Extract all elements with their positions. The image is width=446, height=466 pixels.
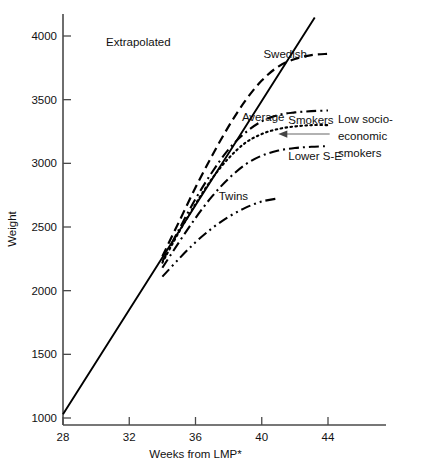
- arrow-head: [278, 130, 287, 137]
- average-label: Average: [242, 111, 285, 123]
- data-series: [63, 18, 328, 415]
- y-axis-title: Weight: [6, 210, 18, 246]
- lower-se-label: Lower S-E: [288, 150, 342, 162]
- y-tick-label: 2500: [31, 221, 57, 233]
- y-tick-label: 3000: [31, 157, 57, 169]
- y-tick-label: 1000: [31, 412, 57, 424]
- twins-label: Twins: [219, 190, 249, 202]
- y-tick-label: 4000: [31, 30, 57, 42]
- y-tick-label: 1500: [31, 348, 57, 360]
- weight-vs-gestational-age-chart: 10001500200025003000350040002832364044We…: [0, 0, 446, 466]
- series-line-extrapolated: [63, 18, 315, 415]
- chart-plot-area: 10001500200025003000350040002832364044We…: [0, 0, 446, 466]
- smokers-label: Smokers: [288, 114, 334, 126]
- x-tick-label: 32: [123, 431, 136, 443]
- low-socio-economic-smokers-label-line3: smokers: [338, 147, 382, 159]
- swedish-label: Swedish: [263, 48, 306, 60]
- low-socio-economic-smokers-label-line2: economic: [338, 130, 387, 142]
- y-tick-label: 2000: [31, 285, 57, 297]
- tick-marks: [63, 36, 328, 425]
- low-socio-economic-smokers-label-line1: Low socio-: [338, 113, 393, 125]
- text-labels: 10001500200025003000350040002832364044We…: [6, 30, 393, 460]
- series-line-twins: [162, 198, 278, 276]
- annotation-arrow: [278, 130, 329, 137]
- extrapolated-label: Extrapolated: [106, 36, 171, 48]
- x-axis-title: Weeks from LMP*: [149, 448, 242, 460]
- x-tick-label: 44: [322, 431, 335, 443]
- y-tick-label: 3500: [31, 94, 57, 106]
- x-tick-label: 40: [255, 431, 268, 443]
- x-tick-label: 28: [57, 431, 70, 443]
- x-tick-label: 36: [189, 431, 202, 443]
- series-line-smokers: [162, 110, 328, 261]
